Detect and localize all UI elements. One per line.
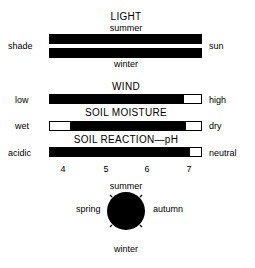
season-disc-icon <box>0 0 255 268</box>
